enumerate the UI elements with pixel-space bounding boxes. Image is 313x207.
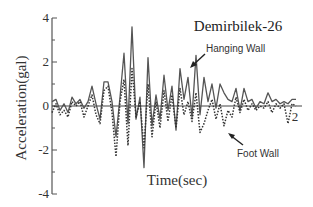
acceleration-chart: 420-2-42 Demirbilek-26 Time(sec) Acceler… (0, 0, 313, 207)
x-tick-label: 2 (292, 109, 299, 124)
y-axis-title: Acceleration(gal) (13, 56, 30, 161)
y-tick-label: 4 (43, 10, 50, 25)
annotation-hanging-wall: Hanging Wall (206, 43, 265, 54)
y-tick-label: -2 (38, 142, 49, 157)
annotation-foot-wall: Foot Wall (237, 148, 279, 159)
y-tick-label: -4 (38, 186, 49, 201)
x-axis-title: Time(sec) (147, 172, 207, 189)
y-tick-label: 0 (43, 98, 50, 113)
chart-title: Demirbilek-26 (194, 18, 283, 34)
y-tick-label: 2 (43, 54, 50, 69)
